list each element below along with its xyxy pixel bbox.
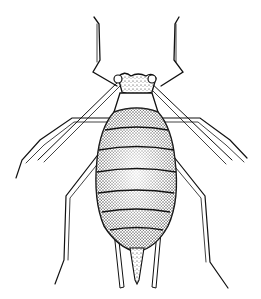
aphid-illustration: aphid illustration <box>0 0 261 299</box>
cauda <box>130 248 144 284</box>
aphid-drawing <box>0 0 261 299</box>
head <box>114 73 156 95</box>
abdomen <box>96 108 177 252</box>
